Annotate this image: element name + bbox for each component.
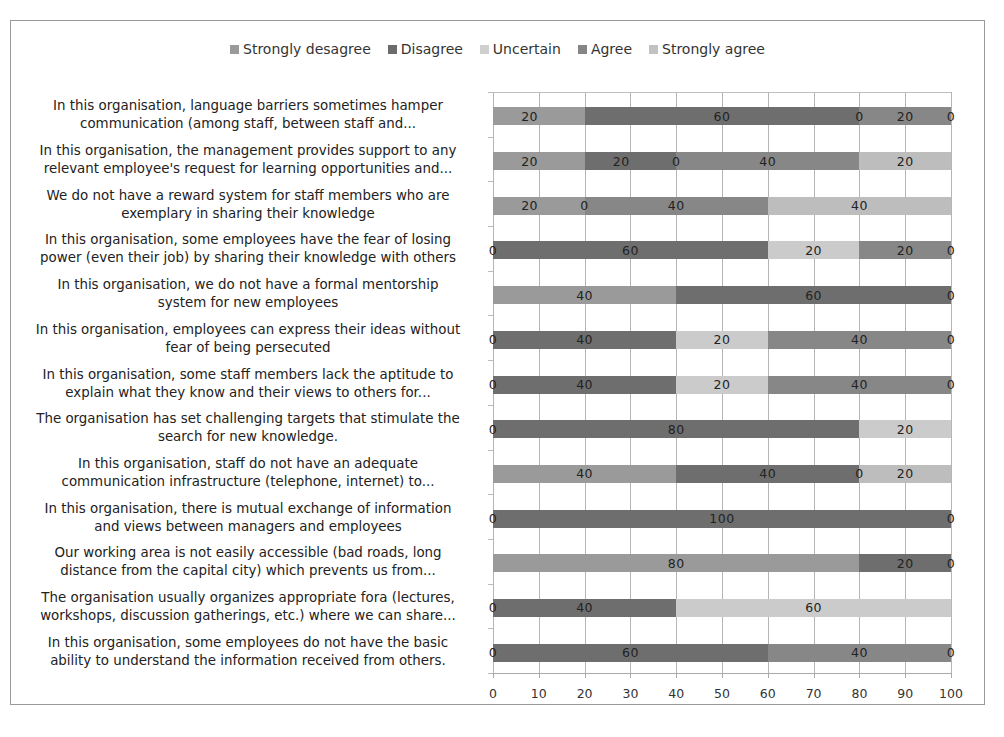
category-label-line1: In this organisation, some employees hav… — [13, 231, 483, 249]
data-label-zero: 0 — [941, 644, 961, 662]
y-tick-mark — [488, 181, 493, 182]
legend-label: Uncertain — [493, 41, 561, 57]
data-label: 100 — [707, 510, 737, 528]
y-tick-mark — [488, 450, 493, 451]
data-label: 40 — [570, 286, 600, 304]
data-label-zero: 0 — [941, 376, 961, 394]
data-label: 20 — [515, 107, 545, 125]
category-label-line2: explain what they know and their views t… — [13, 384, 483, 402]
data-label: 60 — [615, 241, 645, 259]
y-tick-mark — [488, 584, 493, 585]
stacked-bar: 2040400 — [493, 197, 951, 215]
x-tick-mark — [722, 673, 723, 678]
category-label-line2: system for new employees — [13, 294, 483, 312]
x-tick-label: 40 — [668, 686, 684, 701]
category-label-line2: communication (among staff, between staf… — [13, 115, 483, 133]
data-label: 20 — [515, 197, 545, 215]
data-label: 20 — [890, 465, 920, 483]
data-label: 20 — [799, 241, 829, 259]
category-label-line2: and views between managers and employees — [13, 518, 483, 536]
data-label: 20 — [515, 152, 545, 170]
x-tick-label: 90 — [897, 686, 913, 701]
category-label-line1: Our working area is not easily accessibl… — [13, 544, 483, 562]
y-tick-mark — [488, 405, 493, 406]
x-tick-label: 80 — [851, 686, 867, 701]
category-label-line1: In this organisation, there is mutual ex… — [13, 500, 483, 518]
x-tick-label: 50 — [714, 686, 730, 701]
category-label-line2: ability to understand the information re… — [13, 652, 483, 670]
data-label-zero: 0 — [941, 107, 961, 125]
x-tick-mark — [676, 673, 677, 678]
data-label: 80 — [661, 554, 691, 572]
x-tick-mark — [585, 673, 586, 678]
data-label: 60 — [799, 599, 829, 617]
data-label-zero: 0 — [483, 376, 503, 394]
data-label-zero: 0 — [941, 554, 961, 572]
x-tick-mark — [814, 673, 815, 678]
stacked-bar: 604000 — [493, 644, 951, 662]
legend-swatch-icon — [578, 45, 587, 54]
legend-label: Strongly agree — [662, 41, 765, 57]
data-label: 40 — [570, 331, 600, 349]
data-label: 60 — [799, 286, 829, 304]
data-label-zero: 0 — [666, 152, 686, 170]
category-label-line2: workshops, discussion gatherings, etc.) … — [13, 607, 483, 625]
x-tick-label: 0 — [489, 686, 497, 701]
data-label: 20 — [890, 107, 920, 125]
data-label: 40 — [570, 376, 600, 394]
stacked-bar: 40600 — [493, 286, 951, 304]
y-axis-labels: In this organisation, language barriers … — [0, 0, 483, 737]
data-label-zero: 0 — [941, 331, 961, 349]
category-label-line1: In this organisation, we do not have a f… — [13, 276, 483, 294]
legend-item: Uncertain — [480, 39, 561, 59]
data-label-zero: 0 — [483, 420, 503, 438]
category-label-line1: In this organisation, staff do not have … — [13, 455, 483, 473]
data-label: 20 — [890, 241, 920, 259]
data-label: 40 — [844, 197, 874, 215]
data-label: 40 — [844, 331, 874, 349]
x-tick-mark — [630, 673, 631, 678]
data-label: 20 — [890, 420, 920, 438]
data-label: 20 — [707, 376, 737, 394]
stacked-bar: 20602000 — [493, 107, 951, 125]
x-tick-label: 20 — [577, 686, 593, 701]
x-tick-mark — [768, 673, 769, 678]
y-tick-mark — [488, 137, 493, 138]
x-tick-label: 30 — [622, 686, 638, 701]
legend-swatch-icon — [649, 45, 658, 54]
y-tick-mark — [488, 271, 493, 272]
data-label: 60 — [615, 644, 645, 662]
category-label-line1: The organisation has set challenging tar… — [13, 410, 483, 428]
stacked-bar: 10000 — [493, 510, 951, 528]
category-label-line2: search for new knowledge. — [13, 428, 483, 446]
data-label: 20 — [606, 152, 636, 170]
category-label-line2: relevant employee's request for learning… — [13, 160, 483, 178]
data-label-zero: 0 — [941, 286, 961, 304]
category-label-line1: In this organisation, language barriers … — [13, 97, 483, 115]
data-label-zero: 0 — [941, 510, 961, 528]
category-label-line1: In this organisation, the management pro… — [13, 142, 483, 160]
data-label: 40 — [844, 644, 874, 662]
plot-top-border — [493, 92, 951, 93]
data-label-zero: 0 — [483, 510, 503, 528]
data-label: 40 — [661, 197, 691, 215]
legend-item: Strongly agree — [649, 39, 765, 59]
data-label: 60 — [707, 107, 737, 125]
data-label: 40 — [753, 152, 783, 170]
stacked-bar: 40204000 — [493, 376, 951, 394]
data-label: 40 — [570, 599, 600, 617]
y-tick-mark — [488, 92, 493, 93]
data-label: 40 — [570, 465, 600, 483]
category-label-line1: In this organisation, some employees do … — [13, 634, 483, 652]
stacked-bar: 40204000 — [493, 331, 951, 349]
x-tick-mark — [539, 673, 540, 678]
data-label-zero: 0 — [575, 197, 595, 215]
data-label-zero: 0 — [849, 107, 869, 125]
data-label: 20 — [890, 554, 920, 572]
category-label-line1: The organisation usually organizes appro… — [13, 589, 483, 607]
data-label-zero: 0 — [849, 465, 869, 483]
x-tick-mark — [951, 673, 952, 678]
data-label-zero: 0 — [483, 331, 503, 349]
stacked-bar: 202040200 — [493, 152, 951, 170]
y-tick-mark — [488, 226, 493, 227]
